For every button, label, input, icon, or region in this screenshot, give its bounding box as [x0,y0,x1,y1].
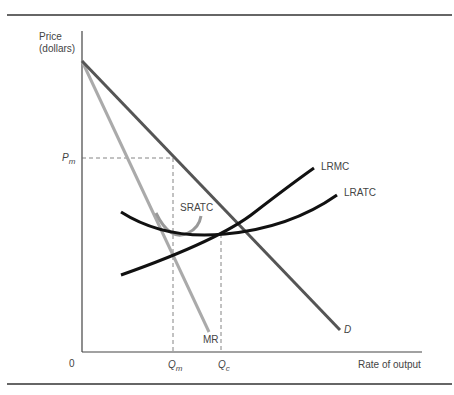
lrmc-label: LRMC [321,161,349,173]
qc-label: Qc [218,359,230,372]
origin-label: 0 [69,358,75,370]
y-axis-label: Price (dollars) [39,31,75,55]
demand-label: D [344,324,351,336]
sratc-label: SRATC [180,202,213,214]
price-marker-pm: Pm [62,152,75,165]
economics-diagram [0,0,454,395]
x-axis-label: Rate of output [358,359,421,371]
mr-curve [82,61,209,332]
mr-label: MR [203,334,219,346]
lratc-label: LRATC [344,187,376,199]
demand-curve [82,61,340,330]
qm-label: Qm [168,359,182,372]
